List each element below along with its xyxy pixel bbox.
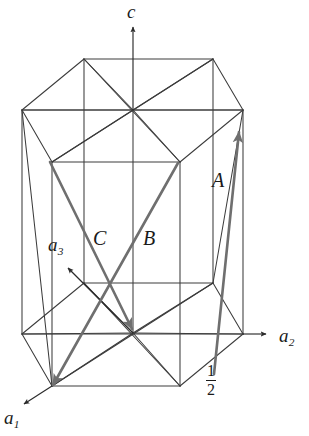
fraction-denominator: 2 bbox=[206, 382, 216, 398]
axis-label-a1: a1 bbox=[4, 408, 19, 427]
bottom-hexagon-edge bbox=[22, 283, 84, 334]
hexagonal-unit-cell-figure: c a2 a3 a1 A B C 1 2 bbox=[0, 0, 309, 436]
vector-line-B bbox=[53, 163, 178, 385]
half-fraction-label: 1 2 bbox=[206, 363, 216, 399]
vector-label-A: A bbox=[212, 170, 224, 190]
axis-label-a2: a2 bbox=[279, 326, 294, 345]
axis-label-a3: a3 bbox=[48, 235, 63, 254]
axis-label-a2-text: a bbox=[279, 325, 289, 346]
lattice-vectors bbox=[50, 132, 239, 385]
axis-label-a3-sub: 3 bbox=[58, 245, 64, 257]
axis-label-a2-sub: 2 bbox=[289, 336, 295, 348]
fraction-numerator: 1 bbox=[206, 363, 216, 379]
top-hexagon-edge bbox=[180, 110, 243, 162]
axis-label-a1-sub: 1 bbox=[14, 418, 20, 430]
axis-label-a1-text: a bbox=[4, 407, 14, 428]
vector-label-C: C bbox=[93, 228, 106, 248]
top-hexagon-edge bbox=[213, 59, 243, 110]
axis-label-c-text: c bbox=[127, 1, 135, 22]
top-hexagon-edge bbox=[22, 59, 84, 110]
axis-label-c: c bbox=[127, 2, 135, 21]
axis-label-a3-text: a bbox=[48, 234, 58, 255]
vector-label-B: B bbox=[143, 228, 155, 248]
unit-cell-drawing bbox=[0, 0, 309, 436]
axis-line-a1 bbox=[24, 386, 52, 404]
bottom-hexagon-edge bbox=[213, 283, 243, 334]
